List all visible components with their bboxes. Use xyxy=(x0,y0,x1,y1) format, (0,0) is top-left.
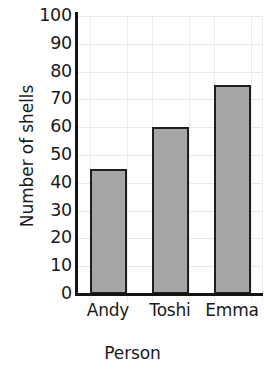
x-axis-tick-label: Toshi xyxy=(139,302,201,319)
y-axis-tick-label: 70 xyxy=(22,90,72,108)
y-axis-tick-label: 10 xyxy=(22,257,72,275)
bar-chart: Number of shells 1009080706050403020100 … xyxy=(0,0,265,374)
bar-toshi xyxy=(152,127,189,294)
y-axis-tick-label: 80 xyxy=(22,63,72,81)
gridline-horizontal xyxy=(77,44,263,45)
y-axis-tick-label: 50 xyxy=(22,146,72,164)
y-axis-tick-label: 60 xyxy=(22,118,72,136)
x-axis-title: Person xyxy=(0,343,265,363)
bar-andy xyxy=(90,169,127,294)
y-axis-tick-label: 100 xyxy=(22,7,72,25)
gridline-vertical xyxy=(127,16,128,302)
bar-emma xyxy=(214,85,251,294)
x-axis-tick-label: Emma xyxy=(201,302,263,319)
gridline-vertical xyxy=(262,16,263,302)
plot-area xyxy=(77,16,263,294)
gridline-horizontal xyxy=(77,72,263,73)
y-axis-tick-label: 90 xyxy=(22,35,72,53)
y-axis-tick-label: 40 xyxy=(22,174,72,192)
y-axis-tick-labels: 1009080706050403020100 xyxy=(22,0,72,374)
x-axis-tick-labels: AndyToshiEmma xyxy=(77,302,265,326)
y-axis-tick-label: 0 xyxy=(22,285,72,303)
x-axis-tick-label: Andy xyxy=(77,302,139,319)
y-axis-line xyxy=(75,12,78,296)
y-axis-tick-label: 30 xyxy=(22,202,72,220)
gridline-vertical xyxy=(251,16,252,302)
gridline-vertical xyxy=(189,16,190,302)
gridline-horizontal xyxy=(77,16,263,17)
x-axis-line xyxy=(75,293,263,296)
y-axis-tick-label: 20 xyxy=(22,229,72,247)
